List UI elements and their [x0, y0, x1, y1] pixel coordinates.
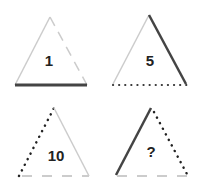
triangle-4-left-edge: [116, 108, 151, 175]
triangle-3-left-edge: [19, 108, 54, 176]
triangle-2: 5: [113, 15, 187, 85]
triangle-4-right-edge: [154, 112, 188, 176]
triangle-3-right-edge: [54, 108, 89, 176]
triangle-4-label: ?: [146, 143, 155, 160]
triangle-1-left-edge: [15, 17, 50, 85]
triangle-1-label: 1: [45, 52, 53, 69]
triangle-2-label: 5: [146, 52, 154, 69]
triangle-4: ?: [116, 108, 188, 176]
triangle-2-right-edge: [149, 15, 186, 84]
triangle-1: 1: [15, 17, 87, 85]
triangle-1-right-edge: [50, 17, 87, 85]
triangle-2-left-edge: [113, 15, 149, 84]
triangle-3-label: 10: [48, 147, 65, 164]
triangle-3: 10: [19, 108, 89, 176]
triangle-puzzle: 1 5 10 ?: [0, 0, 205, 187]
